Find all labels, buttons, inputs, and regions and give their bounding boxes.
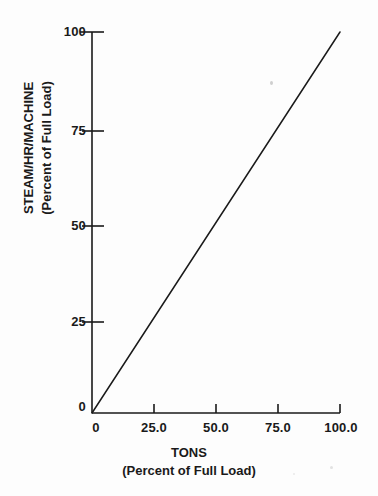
- x-axis-title: TONS (Percent of Full Load): [0, 444, 378, 479]
- x-tick-label-75: 75.0: [265, 421, 291, 434]
- y-tick-label-0: 0: [79, 400, 86, 413]
- data-line-series-1: [92, 32, 340, 413]
- scan-speck: [330, 466, 333, 469]
- scan-speck: [293, 473, 295, 475]
- x-tick-label-50: 50.0: [203, 421, 229, 434]
- scan-speck: [270, 81, 273, 85]
- y-tick-label-100: 100: [64, 25, 86, 38]
- y-tick-label-25: 25: [71, 315, 86, 328]
- x-tick-label-25: 25.0: [141, 421, 167, 434]
- chart-figure: 100 75 50 25 0 0 25.0 50.0 75.0 100.0 TO…: [0, 0, 378, 496]
- y-tick-label-75: 75: [71, 124, 86, 137]
- y-tick-label-50: 50: [71, 219, 86, 232]
- x-axis-title-main: TONS: [171, 445, 207, 460]
- x-tick-label-0: 0: [92, 421, 99, 434]
- x-axis-ticks: [154, 404, 340, 413]
- x-tick-label-100: 100.0: [324, 421, 358, 434]
- y-axis-title: STEAM/HR/MACHINE (Percent of Full Load): [20, 24, 60, 272]
- y-axis-title-main: STEAM/HR/MACHINE: [21, 82, 36, 214]
- x-axis-title-sub: (Percent of Full Load): [0, 462, 378, 480]
- y-axis-title-sub: (Percent of Full Load): [38, 24, 56, 272]
